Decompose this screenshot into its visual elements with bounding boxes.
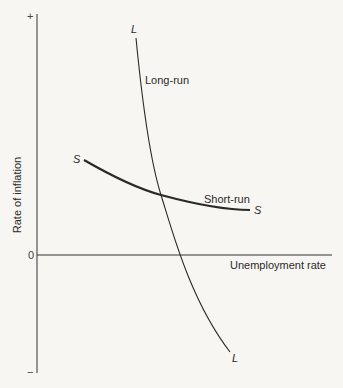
y-axis-minus-marker: −	[27, 366, 33, 378]
long-run-bottom-end-label: L	[232, 352, 238, 364]
y-axis-plus-marker: +	[27, 10, 33, 22]
long-run-label: Long-run	[145, 74, 189, 86]
phillips-curve-diagram: + − 0 Rate of inflation Unemployment rat…	[0, 0, 343, 388]
x-axis-label: Unemployment rate	[230, 259, 326, 271]
short-run-right-end-label: S	[254, 204, 262, 216]
long-run-top-end-label: L	[131, 23, 137, 35]
origin-zero-label: 0	[28, 249, 34, 261]
y-axis-label: Rate of inflation	[11, 157, 23, 233]
short-run-left-end-label: S	[73, 153, 81, 165]
short-run-label: Short-run	[204, 193, 250, 205]
